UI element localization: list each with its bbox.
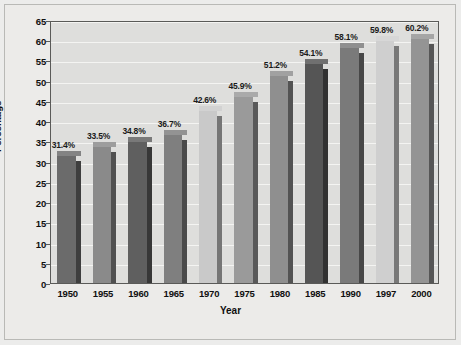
bar-face [376, 41, 394, 283]
y-axis-tick-label: 40 [2, 117, 46, 128]
y-axis-tick-label: 45 [2, 96, 46, 107]
bar-side-shadow [147, 147, 152, 284]
bar-value-label: 45.9% [229, 81, 252, 91]
bar-side-shadow [111, 152, 116, 284]
y-axis-tickmark [46, 102, 50, 103]
bar-value-label: 54.1% [299, 48, 322, 58]
y-axis-tickmark [46, 21, 50, 22]
y-axis-tick-label: 0 [2, 279, 46, 290]
bar [411, 39, 429, 283]
bar-slot [411, 22, 429, 283]
bar-slot [57, 22, 75, 283]
bar [305, 64, 323, 283]
x-axis-tick-label: 1990 [340, 288, 360, 299]
bar-face [128, 142, 146, 283]
bar-slot [128, 22, 146, 283]
y-axis-tick-label: 20 [2, 198, 46, 209]
y-axis-tick-label: 55 [2, 56, 46, 67]
x-axis-tick-label: 1985 [305, 288, 325, 299]
y-axis-tick-label: 35 [2, 137, 46, 148]
y-axis-tick-label: 5 [2, 258, 46, 269]
x-axis-tick-label: 1997 [376, 288, 396, 299]
y-axis-tick-label: 65 [2, 16, 46, 27]
bar-side-shadow [288, 81, 293, 284]
bar-series [51, 22, 438, 283]
bar-face [199, 111, 217, 283]
x-axis-title: Year [0, 305, 461, 316]
y-axis-tick-label: 15 [2, 218, 46, 229]
bar-value-label: 60.2% [405, 23, 428, 33]
y-axis-tick-label: 30 [2, 157, 46, 168]
y-axis-tickmark [46, 122, 50, 123]
bar-face [57, 156, 75, 283]
bar [57, 156, 75, 283]
bar-value-label: 42.6% [193, 95, 216, 105]
bar [270, 76, 288, 283]
bar-value-label: 59.8% [370, 25, 393, 35]
y-axis-tickmark [46, 244, 50, 245]
y-axis-tick-label: 60 [2, 36, 46, 47]
bar-face [340, 48, 358, 283]
bar-face [270, 76, 288, 283]
x-axis-tick-label: 1975 [234, 288, 254, 299]
x-axis-tick-label: 1965 [164, 288, 184, 299]
y-axis-tickmark [46, 264, 50, 265]
bar-face [411, 39, 429, 283]
y-axis-tickmark [46, 61, 50, 62]
y-axis-tickmark [46, 82, 50, 83]
plot-area [50, 21, 439, 284]
bar-face [93, 147, 111, 283]
bar-value-label: 33.5% [87, 131, 110, 141]
bar-slot [376, 22, 394, 283]
x-axis-tick-label: 1980 [270, 288, 290, 299]
bar-value-label: 36.7% [158, 119, 181, 129]
bar-slot [340, 22, 358, 283]
x-axis-tick-label: 1970 [199, 288, 219, 299]
y-axis-tickmark [46, 284, 50, 285]
bar-slot [305, 22, 323, 283]
bar-value-label: 31.4% [52, 140, 75, 150]
bar [128, 142, 146, 283]
bar-side-shadow [253, 102, 258, 284]
bar-value-label: 58.1% [335, 32, 358, 42]
x-axis-tick-label: 2000 [411, 288, 431, 299]
y-axis-tickmark [46, 223, 50, 224]
bar [376, 41, 394, 283]
y-axis-tick-label: 10 [2, 238, 46, 249]
y-axis-tickmark [46, 183, 50, 184]
bar [199, 111, 217, 283]
bar [234, 97, 252, 283]
bar-face [164, 135, 182, 283]
bar-slot [234, 22, 252, 283]
bar-slot [93, 22, 111, 283]
x-axis-tick-label: 1955 [93, 288, 113, 299]
y-axis-tick-label: 25 [2, 177, 46, 188]
bar [93, 147, 111, 283]
bar [340, 48, 358, 283]
bar-side-shadow [217, 116, 222, 284]
bar-side-shadow [429, 44, 434, 284]
bar-value-label: 34.8% [122, 126, 145, 136]
bar-face [234, 97, 252, 283]
bar-side-shadow [394, 46, 399, 284]
bar-face [305, 64, 323, 283]
y-axis-tickmark [46, 142, 50, 143]
bar-value-label: 51.2% [264, 60, 287, 70]
bar-side-shadow [323, 69, 328, 284]
y-axis-tickmark [46, 41, 50, 42]
bar-side-shadow [359, 53, 364, 284]
y-axis-tick-label: 50 [2, 76, 46, 87]
bar-slot [199, 22, 217, 283]
chart-figure: Percentage Year 051015202530354045505560… [0, 0, 461, 345]
bar [164, 135, 182, 283]
x-axis-tick-label: 1950 [58, 288, 78, 299]
x-axis-tick-label: 1960 [128, 288, 148, 299]
bar-side-shadow [76, 161, 81, 284]
bar-side-shadow [182, 140, 187, 284]
y-axis-tickmark [46, 163, 50, 164]
bar-slot [164, 22, 182, 283]
y-axis-tickmark [46, 203, 50, 204]
